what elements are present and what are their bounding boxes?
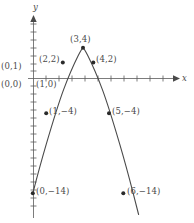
data-point-4	[91, 61, 95, 65]
point-label-3-4: (3,4)	[70, 35, 91, 44]
data-points	[31, 46, 126, 196]
point-label-2-2: (2,2)	[39, 55, 60, 64]
data-point-5	[107, 111, 111, 115]
y-axis-arrowhead	[30, 15, 36, 22]
point-label-5-neg4: (5,−4)	[112, 107, 140, 116]
data-point-1	[44, 111, 48, 115]
data-point-2	[61, 61, 65, 65]
data-point-0	[31, 191, 35, 195]
parabola-graph-figure: y x (0,1) (0,0) (1,0) (2,2) (3,4) (4,2) …	[0, 0, 194, 223]
annotation-0-0: (0,0)	[1, 80, 22, 89]
point-label-6-neg14: (6,−14)	[127, 187, 160, 196]
data-point-6	[121, 191, 125, 195]
data-point-3	[81, 46, 85, 50]
point-label-0-neg14: (0,−14)	[36, 187, 69, 196]
annotation-0-1: (0,1)	[1, 62, 22, 71]
annotation-1-0: (1,0)	[36, 80, 57, 89]
x-axis-label: x	[182, 74, 187, 83]
point-label-4-2: (4,2)	[96, 55, 117, 64]
point-label-1-neg4: (1,−4)	[49, 107, 77, 116]
graph-canvas	[0, 0, 194, 223]
y-axis-label: y	[33, 3, 38, 12]
x-axis-arrowhead	[173, 75, 180, 81]
